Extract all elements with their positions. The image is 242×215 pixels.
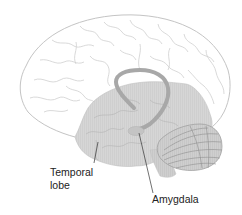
temporal-lobe-label-line2: lobe	[50, 179, 93, 192]
brain-illustration	[0, 0, 242, 215]
brain-diagram: Temporal lobe Amygdala	[0, 0, 242, 215]
amygdala-label: Amygdala	[152, 193, 199, 206]
amygdala-label-line1: Amygdala	[152, 193, 199, 206]
amygdala-region	[128, 127, 144, 136]
temporal-lobe-label-line1: Temporal	[50, 166, 93, 179]
temporal-lobe-label: Temporal lobe	[50, 166, 93, 192]
